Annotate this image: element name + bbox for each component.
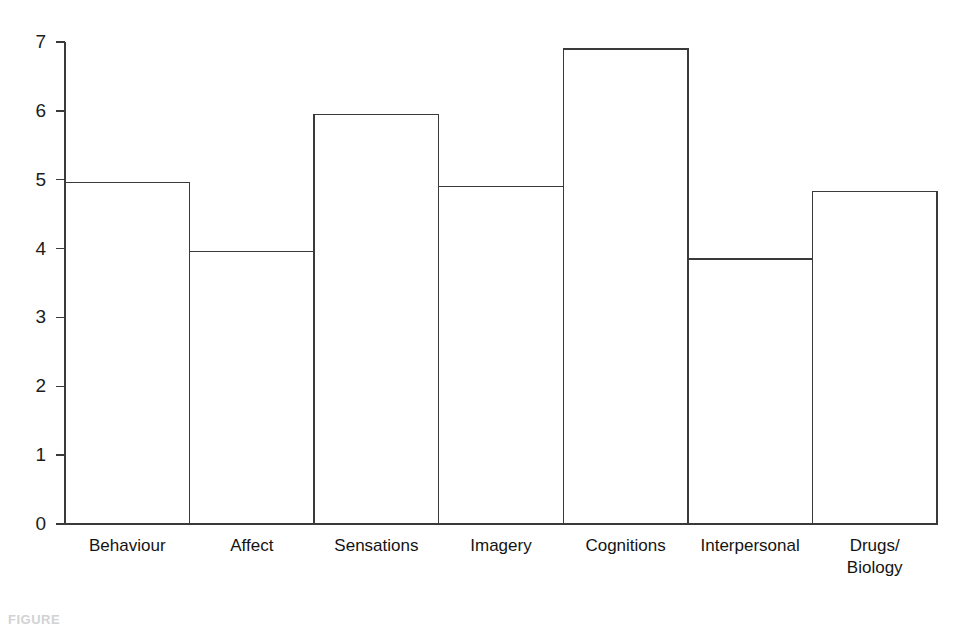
bar [314, 114, 439, 524]
bar [812, 191, 937, 524]
bar-series [65, 49, 937, 524]
bar [439, 187, 564, 524]
y-tick-label: 2 [35, 375, 46, 396]
x-axis-category-label: Cognitions [585, 536, 665, 555]
y-tick-label: 6 [35, 100, 46, 121]
bar [688, 259, 813, 524]
y-axis-tick-labels: 01234567 [35, 31, 46, 534]
x-axis-category-label: Sensations [334, 536, 418, 555]
x-axis-category-label: Imagery [470, 536, 532, 555]
y-tick-label: 7 [35, 31, 46, 52]
y-axis-ticks [56, 42, 65, 524]
figure-container: 01234567 BehaviourAffectSensationsImager… [0, 0, 964, 624]
bar [190, 251, 315, 524]
bar [65, 182, 190, 524]
x-axis-category-label: Drugs/Biology [847, 536, 903, 577]
y-tick-label: 4 [35, 238, 46, 259]
y-tick-label: 0 [35, 513, 46, 534]
y-tick-label: 5 [35, 169, 46, 190]
bar-chart: 01234567 BehaviourAffectSensationsImager… [0, 0, 964, 624]
x-axis-category-label: Behaviour [89, 536, 166, 555]
y-tick-label: 1 [35, 444, 46, 465]
x-axis-category-labels: BehaviourAffectSensationsImageryCognitio… [89, 536, 903, 577]
x-axis-category-label: Interpersonal [701, 536, 800, 555]
y-tick-label: 3 [35, 306, 46, 327]
bar [563, 49, 688, 524]
x-axis-category-label: Affect [230, 536, 273, 555]
figure-caption: FIGURE [8, 612, 60, 624]
